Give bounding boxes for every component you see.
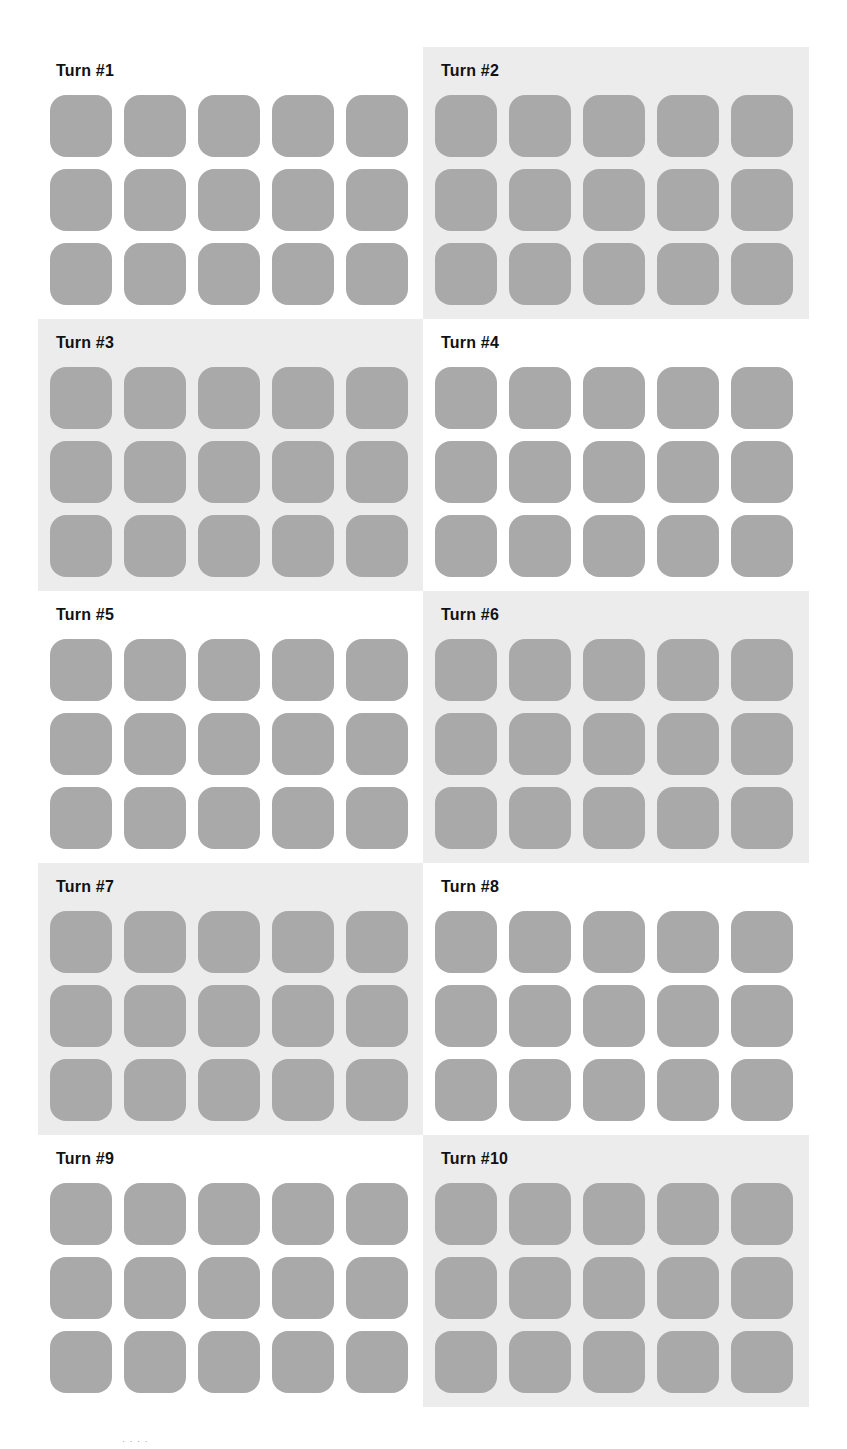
tile-r3-c5[interactable]	[731, 1059, 793, 1121]
tile-r1-c3[interactable]	[583, 367, 645, 429]
tile-r1-c4[interactable]	[272, 1183, 334, 1245]
tile-r3-c3[interactable]	[583, 787, 645, 849]
tile-r2-c5[interactable]	[346, 1257, 408, 1319]
tile-r2-c4[interactable]	[272, 169, 334, 231]
tile-r2-c4[interactable]	[272, 985, 334, 1047]
tile-r3-c5[interactable]	[731, 515, 793, 577]
tile-r1-c3[interactable]	[198, 911, 260, 973]
tile-r3-c3[interactable]	[198, 243, 260, 305]
tile-r2-c5[interactable]	[346, 441, 408, 503]
tile-r1-c3[interactable]	[583, 95, 645, 157]
tile-r2-c4[interactable]	[657, 1257, 719, 1319]
tile-r3-c5[interactable]	[731, 243, 793, 305]
tile-r2-c2[interactable]	[124, 441, 186, 503]
tile-r3-c3[interactable]	[198, 1331, 260, 1393]
tile-r2-c5[interactable]	[731, 713, 793, 775]
tile-r3-c4[interactable]	[657, 1331, 719, 1393]
tile-r1-c1[interactable]	[435, 1183, 497, 1245]
tile-r3-c3[interactable]	[583, 243, 645, 305]
tile-r1-c4[interactable]	[272, 911, 334, 973]
tile-r3-c3[interactable]	[198, 787, 260, 849]
tile-r1-c1[interactable]	[435, 911, 497, 973]
tile-r2-c1[interactable]	[435, 1257, 497, 1319]
tile-r2-c5[interactable]	[731, 985, 793, 1047]
tile-r1-c2[interactable]	[124, 95, 186, 157]
tile-r1-c1[interactable]	[50, 95, 112, 157]
tile-r1-c1[interactable]	[435, 367, 497, 429]
tile-r3-c5[interactable]	[346, 243, 408, 305]
tile-r2-c3[interactable]	[198, 985, 260, 1047]
tile-r3-c2[interactable]	[124, 243, 186, 305]
tile-r3-c1[interactable]	[50, 1059, 112, 1121]
tile-r1-c4[interactable]	[657, 639, 719, 701]
tile-r1-c4[interactable]	[657, 1183, 719, 1245]
tile-r1-c1[interactable]	[435, 95, 497, 157]
tile-r1-c3[interactable]	[198, 639, 260, 701]
tile-r1-c2[interactable]	[124, 1183, 186, 1245]
tile-r1-c5[interactable]	[731, 911, 793, 973]
tile-r2-c5[interactable]	[346, 169, 408, 231]
tile-r3-c4[interactable]	[272, 243, 334, 305]
tile-r1-c5[interactable]	[346, 639, 408, 701]
tile-r3-c1[interactable]	[435, 515, 497, 577]
tile-r3-c2[interactable]	[124, 787, 186, 849]
tile-r3-c2[interactable]	[124, 1059, 186, 1121]
tile-r1-c4[interactable]	[272, 95, 334, 157]
tile-r2-c2[interactable]	[509, 713, 571, 775]
tile-r2-c4[interactable]	[272, 713, 334, 775]
tile-r2-c1[interactable]	[50, 985, 112, 1047]
tile-r3-c5[interactable]	[346, 787, 408, 849]
tile-r3-c4[interactable]	[657, 787, 719, 849]
tile-r1-c2[interactable]	[509, 1183, 571, 1245]
tile-r1-c1[interactable]	[50, 639, 112, 701]
tile-r3-c3[interactable]	[583, 1331, 645, 1393]
tile-r2-c2[interactable]	[124, 169, 186, 231]
tile-r2-c2[interactable]	[509, 985, 571, 1047]
tile-r2-c3[interactable]	[583, 1257, 645, 1319]
tile-r3-c4[interactable]	[272, 1059, 334, 1121]
tile-r1-c1[interactable]	[50, 911, 112, 973]
tile-r2-c2[interactable]	[124, 713, 186, 775]
tile-r3-c5[interactable]	[731, 787, 793, 849]
tile-r1-c5[interactable]	[731, 95, 793, 157]
tile-r1-c2[interactable]	[124, 911, 186, 973]
tile-r1-c2[interactable]	[509, 639, 571, 701]
tile-r3-c4[interactable]	[272, 1331, 334, 1393]
tile-r1-c2[interactable]	[509, 911, 571, 973]
tile-r2-c2[interactable]	[509, 169, 571, 231]
tile-r2-c3[interactable]	[198, 169, 260, 231]
tile-r1-c5[interactable]	[346, 95, 408, 157]
tile-r3-c4[interactable]	[657, 515, 719, 577]
tile-r2-c4[interactable]	[657, 713, 719, 775]
tile-r3-c4[interactable]	[657, 243, 719, 305]
tile-r2-c3[interactable]	[198, 1257, 260, 1319]
tile-r3-c2[interactable]	[124, 1331, 186, 1393]
tile-r3-c5[interactable]	[346, 515, 408, 577]
tile-r3-c2[interactable]	[509, 515, 571, 577]
tile-r3-c5[interactable]	[346, 1331, 408, 1393]
tile-r2-c3[interactable]	[583, 985, 645, 1047]
tile-r2-c1[interactable]	[435, 985, 497, 1047]
tile-r1-c1[interactable]	[50, 1183, 112, 1245]
tile-r2-c3[interactable]	[583, 169, 645, 231]
tile-r1-c3[interactable]	[583, 639, 645, 701]
tile-r2-c2[interactable]	[124, 985, 186, 1047]
tile-r1-c2[interactable]	[509, 367, 571, 429]
tile-r2-c5[interactable]	[346, 985, 408, 1047]
tile-r1-c4[interactable]	[657, 367, 719, 429]
tile-r2-c1[interactable]	[435, 441, 497, 503]
tile-r2-c5[interactable]	[731, 1257, 793, 1319]
tile-r2-c3[interactable]	[198, 441, 260, 503]
tile-r1-c4[interactable]	[272, 639, 334, 701]
tile-r3-c2[interactable]	[509, 1331, 571, 1393]
tile-r3-c2[interactable]	[124, 515, 186, 577]
tile-r1-c2[interactable]	[124, 367, 186, 429]
tile-r2-c1[interactable]	[435, 713, 497, 775]
tile-r2-c2[interactable]	[509, 441, 571, 503]
tile-r2-c3[interactable]	[583, 713, 645, 775]
tile-r3-c3[interactable]	[583, 515, 645, 577]
tile-r1-c3[interactable]	[198, 95, 260, 157]
tile-r1-c1[interactable]	[50, 367, 112, 429]
tile-r3-c1[interactable]	[435, 787, 497, 849]
tile-r3-c1[interactable]	[435, 243, 497, 305]
